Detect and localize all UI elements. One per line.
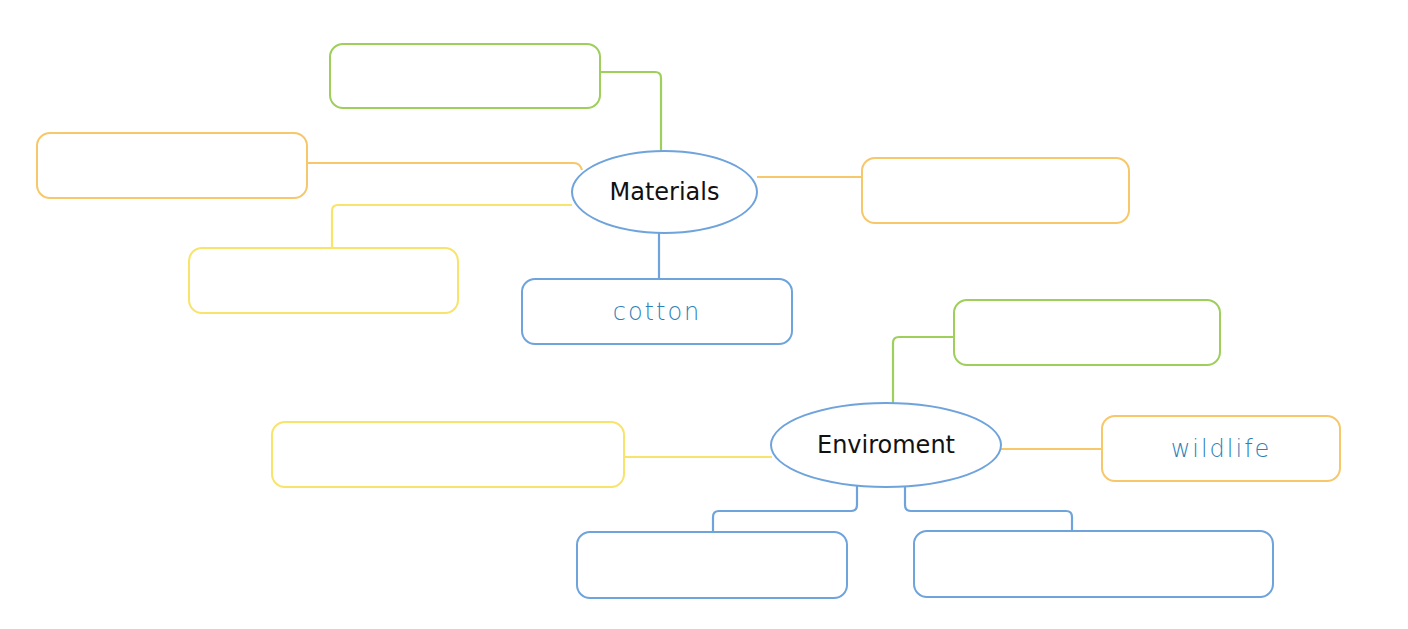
environment-branch-bottom-right[interactable]	[913, 530, 1274, 598]
environment-branch-left[interactable]	[271, 421, 625, 488]
branch-text: wildlife	[1171, 435, 1272, 463]
environment-branch-top-right[interactable]	[953, 299, 1221, 366]
materials-branch-right[interactable]	[861, 157, 1130, 224]
materials-branch-lower-left[interactable]	[188, 247, 459, 314]
environment-branch-right[interactable]: wildlife	[1101, 415, 1341, 482]
center-label: Materials	[609, 178, 719, 206]
environment-branch-bottom-left[interactable]	[576, 531, 848, 599]
materials-branch-top-left[interactable]	[329, 43, 601, 109]
branch-text: cotton	[613, 298, 702, 326]
center-label: Enviroment	[817, 431, 955, 459]
center-node-environment[interactable]: Enviroment	[770, 402, 1002, 488]
center-node-materials[interactable]: Materials	[571, 150, 758, 234]
materials-branch-left[interactable]	[36, 132, 308, 199]
materials-branch-bottom[interactable]: cotton	[521, 278, 793, 345]
